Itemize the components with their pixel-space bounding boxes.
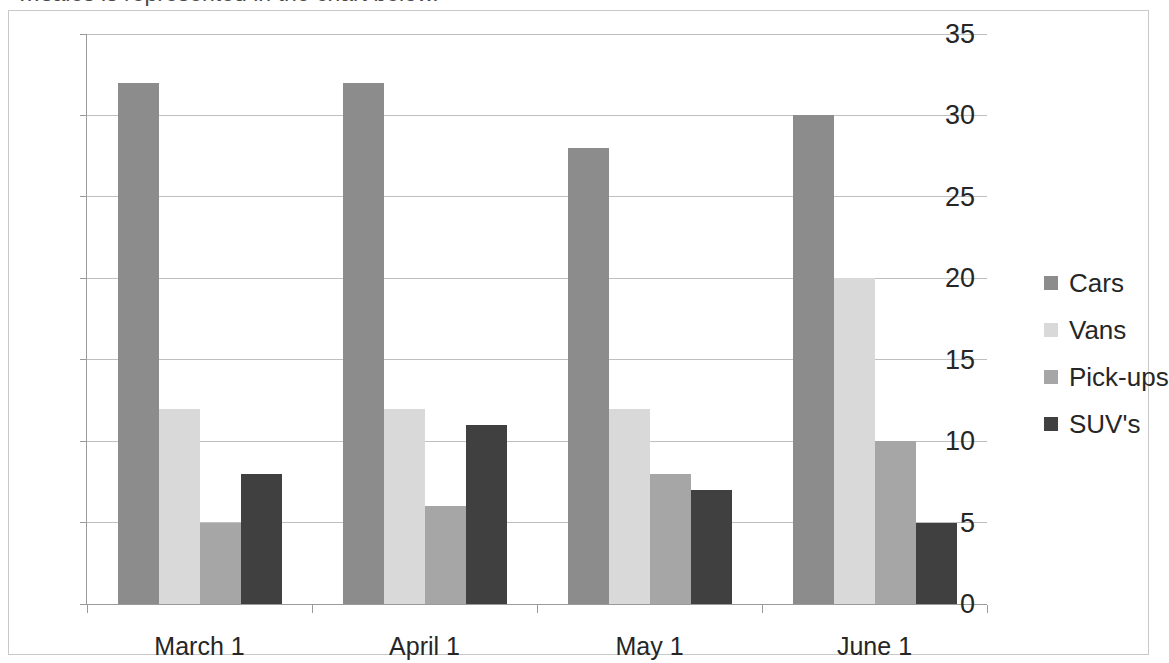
bar[interactable]	[609, 409, 650, 604]
legend-item[interactable]: SUV's	[1044, 400, 1169, 447]
chart-frame: 05101520253035 March 1April 1May 1June 1…	[8, 10, 1149, 655]
plot-inner: 05101520253035 March 1April 1May 1June 1	[87, 34, 987, 604]
bar[interactable]	[834, 278, 875, 604]
bar[interactable]	[159, 409, 200, 604]
x-axis-tick	[537, 605, 538, 613]
x-axis-tick-label: March 1	[87, 634, 312, 659]
x-axis-tick-label: May 1	[537, 634, 762, 659]
y-axis-tick-label: 35	[945, 21, 975, 48]
bar[interactable]	[118, 83, 159, 604]
legend-item-label: SUV's	[1069, 411, 1140, 437]
legend-swatch-icon	[1044, 370, 1058, 384]
clipped-heading-strip: …sales is represented in the chart below…	[0, 0, 1157, 9]
x-axis-tick	[312, 605, 313, 613]
legend-item[interactable]: Vans	[1044, 306, 1169, 353]
legend-item-label: Vans	[1069, 317, 1126, 343]
y-axis-tick	[80, 604, 87, 605]
bar[interactable]	[875, 441, 916, 604]
bar[interactable]	[650, 474, 691, 604]
bar[interactable]	[466, 425, 507, 604]
y-axis-tick-label: 0	[960, 591, 975, 618]
x-axis-tick	[762, 605, 763, 613]
bar[interactable]	[425, 506, 466, 604]
y-axis-tick	[80, 278, 87, 279]
bar[interactable]	[241, 474, 282, 604]
legend-swatch-icon	[1044, 417, 1058, 431]
y-axis-tick-label: 15	[945, 347, 975, 374]
bar[interactable]	[691, 490, 732, 604]
x-axis-tick	[87, 605, 88, 613]
y-axis-tick-label: 30	[945, 102, 975, 129]
bar[interactable]	[568, 148, 609, 604]
plot-area: 05101520253035 March 1April 1May 1June 1	[87, 34, 987, 604]
y-axis-tick	[80, 522, 87, 523]
gridline	[87, 196, 987, 197]
legend-item[interactable]: Cars	[1044, 259, 1169, 306]
x-axis-tick	[987, 605, 988, 613]
y-axis-spine	[86, 34, 87, 605]
legend-item[interactable]: Pick-ups	[1044, 353, 1169, 400]
y-axis-tick-label: 5	[960, 510, 975, 537]
y-axis-tick	[80, 441, 87, 442]
y-axis-tick	[80, 359, 87, 360]
y-axis-tick	[80, 34, 87, 35]
clipped-heading-text: …sales is represented in the chart below…	[18, 0, 439, 7]
gridline	[87, 115, 987, 116]
gridline	[87, 34, 987, 35]
y-axis-tick	[80, 196, 87, 197]
legend-item-label: Pick-ups	[1069, 364, 1169, 390]
x-axis-tick-label: April 1	[312, 634, 537, 659]
legend-swatch-icon	[1044, 276, 1058, 290]
legend-item-label: Cars	[1069, 270, 1124, 296]
y-axis-tick-label: 10	[945, 428, 975, 455]
bar[interactable]	[916, 523, 957, 604]
bar[interactable]	[343, 83, 384, 604]
y-axis-tick-label: 25	[945, 184, 975, 211]
x-axis-tick-label: June 1	[762, 634, 987, 659]
bar[interactable]	[793, 115, 834, 604]
chart-legend: CarsVansPick-upsSUV's	[1044, 259, 1169, 447]
y-axis-tick-label: 20	[945, 265, 975, 292]
legend-swatch-icon	[1044, 323, 1058, 337]
bar[interactable]	[200, 523, 241, 604]
y-axis-tick	[80, 115, 87, 116]
bar[interactable]	[384, 409, 425, 604]
